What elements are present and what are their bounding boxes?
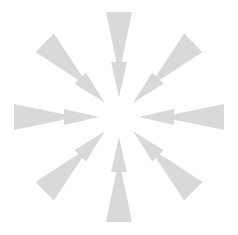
spoke-top-outer-wedge <box>106 12 132 75</box>
spoke-top-left-outer-wedge <box>36 34 99 97</box>
spoke-bottom-right <box>124 122 202 200</box>
loading-spinner-icon <box>0 0 238 235</box>
spoke-bottom-outer-wedge <box>106 159 132 222</box>
spoke-bottom-left-outer-wedge <box>36 138 99 201</box>
spoke-bottom <box>106 137 132 222</box>
spoke-top-right <box>124 34 202 112</box>
spoke-left-outer-wedge <box>14 104 77 130</box>
spoke-bottom-right-outer-wedge <box>140 138 203 201</box>
spoke-top-right-outer-wedge <box>140 34 203 97</box>
spoke-right-outer-wedge <box>161 104 224 130</box>
spoke-top <box>106 12 132 97</box>
spinner-canvas <box>0 0 238 235</box>
spoke-top-left <box>36 34 114 112</box>
spoke-bottom-left <box>36 122 114 200</box>
spoke-left <box>14 104 99 130</box>
spoke-right <box>139 104 224 130</box>
